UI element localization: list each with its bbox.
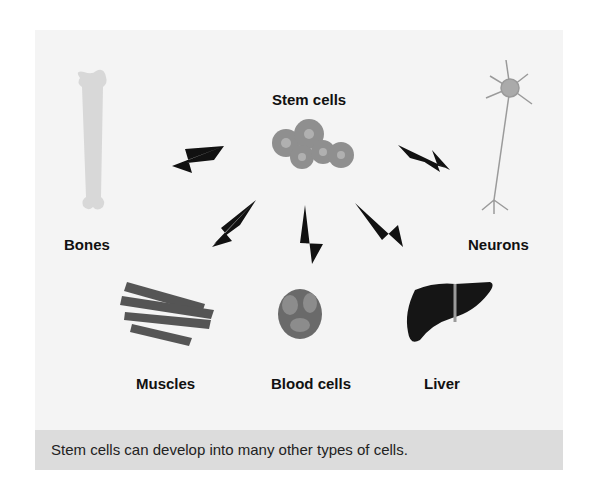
arrow-to-bones <box>172 146 224 173</box>
label-blood-cells: Blood cells <box>271 375 351 392</box>
label-muscles: Muscles <box>136 375 195 392</box>
arrow-to-muscles <box>212 200 256 247</box>
arrow-to-blood <box>300 205 323 264</box>
label-bones: Bones <box>64 236 110 253</box>
neuron-icon <box>482 60 532 214</box>
blood-cells-icon <box>278 289 322 339</box>
label-neurons: Neurons <box>468 236 529 253</box>
arrow-to-liver <box>355 203 403 247</box>
stem-cells-icon <box>272 119 354 169</box>
caption-text: Stem cells can develop into many other t… <box>51 441 408 458</box>
arrow-to-neurons <box>398 145 450 172</box>
bone-icon <box>78 70 107 210</box>
muscles-icon <box>120 282 214 346</box>
label-liver: Liver <box>424 375 460 392</box>
caption-band: Stem cells can develop into many other t… <box>35 430 563 470</box>
liver-icon <box>407 282 493 342</box>
label-stem-cells: Stem cells <box>272 91 346 108</box>
